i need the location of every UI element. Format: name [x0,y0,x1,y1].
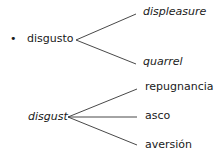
target-word-repugnancia: repugnancia [145,81,214,93]
target-word-quarrel: quarrel [143,56,183,68]
source-word-disgusto: disgusto [27,33,74,45]
connector-lines [0,0,219,155]
target-word-asco: asco [145,110,170,122]
line-disgust-aversion [68,117,137,145]
line-disgust-repugnancia [68,89,137,117]
line-disgusto-quarrel [76,40,136,64]
line-disgusto-displeasure [76,14,136,40]
bullet-icon: • [10,33,17,45]
source-word-disgust: disgust [28,111,68,123]
target-word-displeasure: displeasure [143,6,206,18]
target-word-aversion: aversión [145,139,192,151]
